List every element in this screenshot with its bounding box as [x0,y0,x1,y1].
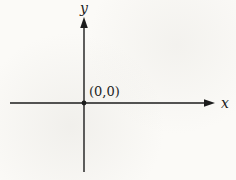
origin-point [82,101,87,106]
x-axis-label: x [221,95,229,111]
axes-canvas: y x (0,0) [0,0,236,180]
x-axis-arrowhead-icon [204,99,215,107]
y-axis-label: y [79,0,89,16]
origin-label: (0,0) [89,84,120,99]
y-axis-arrowhead-icon [80,17,88,28]
coordinate-plane-figure: y x (0,0) [0,0,236,180]
